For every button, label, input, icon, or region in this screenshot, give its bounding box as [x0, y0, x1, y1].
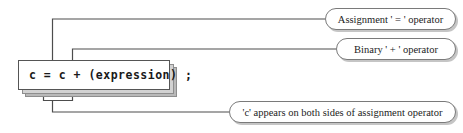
callout-binary-operator: Binary ' + ' operator — [336, 38, 456, 60]
callout-both-sides: 'c' appears on both sides of assignment … — [229, 101, 456, 123]
callout-binary-label: Binary ' + ' operator — [350, 44, 442, 55]
code-statement-box: c = c + (expression) ; — [18, 60, 170, 90]
code-box-face: c = c + (expression) ; — [18, 60, 170, 90]
connector-assignment — [53, 19, 326, 60]
connector-binary — [73, 49, 337, 60]
code-statement-text: c = c + (expression) ; — [29, 68, 192, 82]
callout-assignment-label: Assignment ' = ' operator — [334, 14, 447, 25]
annotated-code-diagram: c = c + (expression) ; Assignment ' = ' … — [0, 0, 463, 133]
callout-both-sides-label: 'c' appears on both sides of assignment … — [238, 107, 446, 118]
callout-assignment-operator: Assignment ' = ' operator — [325, 8, 456, 30]
